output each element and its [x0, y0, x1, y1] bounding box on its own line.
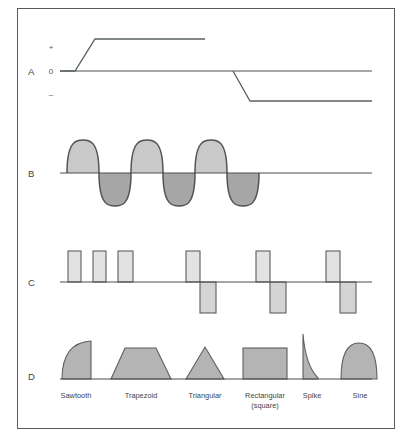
- row-a-group: A + 0 –: [28, 39, 372, 101]
- caption-triangular: Triangular: [189, 391, 223, 400]
- axis-tick-zero: 0: [49, 67, 54, 76]
- row-label-d: D: [28, 371, 35, 382]
- row-b-negative-fills: [99, 173, 259, 206]
- caption-sawtooth: Sawtooth: [61, 391, 92, 400]
- waveform-svg: A + 0 – B: [0, 0, 410, 441]
- row-c-bipolar-3-positive: [326, 251, 340, 282]
- shape-sawtooth: [62, 341, 91, 379]
- row-c-unipolar-pulses: [68, 251, 133, 282]
- shape-triangular: [186, 347, 224, 379]
- row-label-a: A: [28, 66, 35, 77]
- shape-trapezoid: [111, 348, 171, 379]
- caption-spike: Spike: [303, 391, 322, 400]
- caption-trapezoid: Trapezoid: [125, 391, 158, 400]
- row-c-group: C: [28, 251, 372, 313]
- row-label-b: B: [28, 168, 34, 179]
- caption-sine: Sine: [353, 391, 368, 400]
- shape-sine: [341, 343, 377, 379]
- row-b-positive-fills: [67, 140, 227, 173]
- axis-tick-plus: +: [49, 43, 54, 52]
- row-c-bipolar-2-positive: [256, 251, 270, 282]
- row-d-group: D: [28, 334, 377, 382]
- row-a-negative-step: [233, 71, 372, 101]
- row-a-positive-step: [60, 39, 205, 71]
- shape-rectangular: [243, 348, 287, 379]
- caption-rectangular-sub: (square): [251, 401, 279, 410]
- row-c-pulse-2: [93, 251, 106, 282]
- row-c-bipolar-3-negative: [340, 282, 356, 313]
- row-c-bipolar-2-negative: [270, 282, 286, 313]
- caption-row: Sawtooth Trapezoid Triangular Rectangula…: [61, 391, 368, 410]
- shape-spike: [303, 334, 318, 379]
- row-c-bipolar-1-negative: [200, 282, 216, 313]
- row-b-group: B: [28, 140, 372, 206]
- axis-tick-minus: –: [49, 90, 54, 99]
- caption-rectangular: Rectangular: [245, 391, 285, 400]
- row-c-pulse-3: [118, 251, 133, 282]
- row-c-bipolar-1-positive: [186, 251, 200, 282]
- row-c-pulse-1: [68, 251, 81, 282]
- waveform-figure: A + 0 – B: [0, 0, 410, 441]
- row-label-c: C: [28, 277, 35, 288]
